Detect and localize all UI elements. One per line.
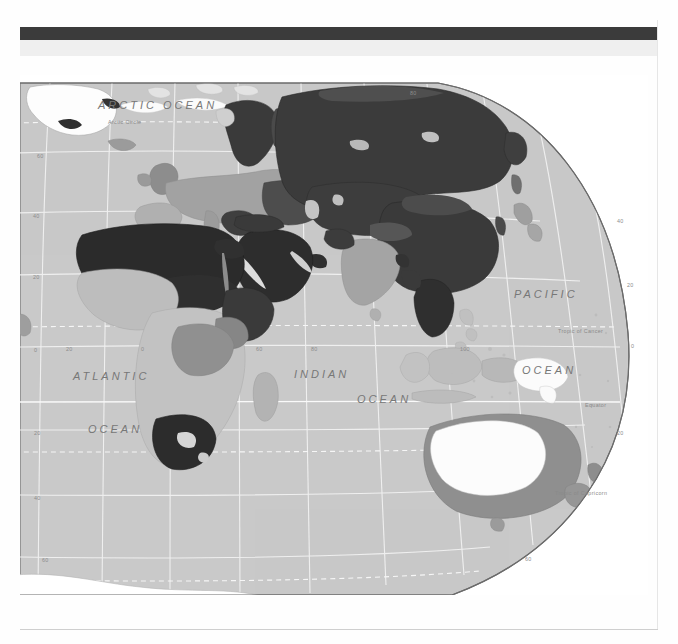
header-subband: [20, 40, 658, 56]
document-page: ARCTIC OCEANATLANTICOCEANINDIANOCEANPACI…: [0, 0, 678, 644]
map-canvas: [20, 75, 648, 595]
page-edge: [657, 20, 658, 629]
footer-rule: [20, 629, 658, 630]
equator-line: [20, 401, 620, 402]
header-band: [20, 27, 658, 40]
world-map: ARCTIC OCEANATLANTICOCEANINDIANOCEANPACI…: [20, 75, 648, 595]
